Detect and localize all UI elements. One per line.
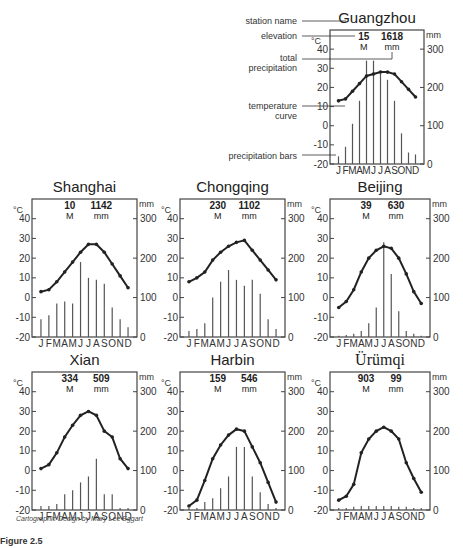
svg-text:200: 200 bbox=[288, 253, 305, 264]
svg-text:F: F bbox=[343, 338, 349, 349]
svg-text:100: 100 bbox=[433, 292, 450, 303]
svg-text:J: J bbox=[86, 338, 91, 349]
svg-text:mm: mm bbox=[139, 199, 154, 209]
svg-text:40: 40 bbox=[317, 213, 329, 224]
svg-text:100: 100 bbox=[288, 292, 305, 303]
svg-text:D: D bbox=[418, 511, 425, 522]
svg-text:30: 30 bbox=[317, 406, 329, 417]
svg-text:10: 10 bbox=[19, 445, 31, 456]
svg-text:mm: mm bbox=[94, 211, 109, 221]
svg-text:J: J bbox=[226, 511, 231, 522]
svg-text:30: 30 bbox=[19, 233, 31, 244]
svg-text:630: 630 bbox=[388, 200, 405, 211]
svg-text:J: J bbox=[378, 165, 383, 176]
svg-text:300: 300 bbox=[140, 386, 157, 397]
svg-text:200: 200 bbox=[433, 253, 450, 264]
svg-text:N: N bbox=[410, 338, 417, 349]
svg-text:10: 10 bbox=[317, 101, 329, 112]
svg-text:30: 30 bbox=[19, 406, 31, 417]
svg-text:M: M bbox=[362, 165, 370, 176]
svg-text:M: M bbox=[362, 384, 370, 394]
climograph-beijing: Beijing39M630mm°C403020100-10-20mm300200… bbox=[311, 178, 450, 349]
svg-text:curve: curve bbox=[275, 111, 297, 121]
svg-text:300: 300 bbox=[433, 213, 450, 224]
svg-text:mm: mm bbox=[389, 211, 404, 221]
svg-text:mm: mm bbox=[385, 42, 400, 52]
svg-text:-10: -10 bbox=[314, 485, 329, 496]
svg-text:-10: -10 bbox=[164, 312, 179, 323]
svg-text:30: 30 bbox=[317, 233, 329, 244]
svg-text:A: A bbox=[384, 165, 391, 176]
svg-text:J: J bbox=[186, 338, 191, 349]
svg-text:509: 509 bbox=[93, 373, 110, 384]
svg-text:0: 0 bbox=[322, 465, 328, 476]
svg-text:J: J bbox=[381, 338, 386, 349]
svg-text:O: O bbox=[256, 511, 264, 522]
svg-text:M: M bbox=[350, 338, 358, 349]
figure-caption: Figure 2.5 bbox=[0, 536, 43, 546]
svg-text:A: A bbox=[61, 338, 68, 349]
svg-text:-20: -20 bbox=[314, 159, 329, 170]
svg-text:J: J bbox=[336, 165, 341, 176]
svg-text:20: 20 bbox=[19, 253, 31, 264]
svg-text:100: 100 bbox=[427, 120, 444, 131]
svg-text:A: A bbox=[93, 338, 100, 349]
svg-text:0: 0 bbox=[322, 120, 328, 131]
svg-text:temperature: temperature bbox=[248, 101, 297, 111]
svg-text:mm: mm bbox=[287, 372, 302, 382]
svg-text:mm: mm bbox=[426, 30, 441, 40]
svg-text:M: M bbox=[362, 211, 370, 221]
svg-text:20: 20 bbox=[317, 426, 329, 437]
svg-text:40: 40 bbox=[167, 386, 179, 397]
svg-text:J: J bbox=[374, 338, 379, 349]
svg-text:100: 100 bbox=[433, 465, 450, 476]
climograph-rmqi: Ürümqi903M99mm°C403020100-10-20mm3002001… bbox=[311, 351, 450, 522]
svg-text:J: J bbox=[374, 511, 379, 522]
svg-text:300: 300 bbox=[433, 386, 450, 397]
svg-text:10: 10 bbox=[19, 272, 31, 283]
svg-text:546: 546 bbox=[241, 373, 258, 384]
svg-text:20: 20 bbox=[167, 426, 179, 437]
svg-text:N: N bbox=[265, 338, 272, 349]
svg-text:1142: 1142 bbox=[90, 200, 112, 211]
svg-text:200: 200 bbox=[140, 253, 157, 264]
svg-text:J: J bbox=[381, 511, 386, 522]
climograph-guangzhou: Guangzhou15M1618mm°C403020100-10-20mm300… bbox=[311, 9, 444, 176]
svg-text:-20: -20 bbox=[314, 332, 329, 343]
svg-text:Harbin: Harbin bbox=[210, 351, 254, 368]
svg-text:0: 0 bbox=[172, 292, 178, 303]
svg-text:40: 40 bbox=[317, 386, 329, 397]
svg-text:M: M bbox=[216, 338, 224, 349]
climograph-chongqing: Chongqing230M1102mm°C403020100-10-20mm30… bbox=[161, 178, 305, 349]
svg-text:-20: -20 bbox=[314, 505, 329, 516]
svg-text:precipitation bars: precipitation bars bbox=[228, 151, 297, 161]
svg-text:J: J bbox=[371, 165, 376, 176]
svg-text:20: 20 bbox=[167, 253, 179, 264]
svg-text:39: 39 bbox=[360, 200, 372, 211]
svg-text:A: A bbox=[209, 511, 216, 522]
svg-text:0: 0 bbox=[24, 292, 30, 303]
svg-text:0: 0 bbox=[288, 505, 294, 516]
svg-text:40: 40 bbox=[19, 386, 31, 397]
svg-text:mm: mm bbox=[242, 211, 257, 221]
svg-text:total: total bbox=[280, 53, 297, 63]
climograph-harbin: Harbin159M546mm°C403020100-10-20mm300200… bbox=[161, 351, 305, 522]
svg-text:903: 903 bbox=[358, 373, 375, 384]
svg-text:A: A bbox=[241, 511, 248, 522]
svg-text:A: A bbox=[388, 511, 395, 522]
svg-text:A: A bbox=[209, 338, 216, 349]
svg-text:230: 230 bbox=[209, 200, 226, 211]
svg-text:mm: mm bbox=[287, 199, 302, 209]
svg-text:40: 40 bbox=[167, 213, 179, 224]
svg-text:J: J bbox=[78, 338, 83, 349]
svg-text:-20: -20 bbox=[16, 505, 31, 516]
svg-text:-10: -10 bbox=[16, 485, 31, 496]
svg-text:0: 0 bbox=[24, 465, 30, 476]
svg-text:10: 10 bbox=[317, 445, 329, 456]
svg-text:M: M bbox=[350, 511, 358, 522]
svg-text:S: S bbox=[249, 338, 256, 349]
svg-text:N: N bbox=[410, 511, 417, 522]
svg-text:S: S bbox=[395, 511, 402, 522]
